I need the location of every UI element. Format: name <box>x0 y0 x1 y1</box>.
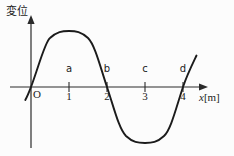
point-label-c: c <box>142 64 148 74</box>
point-label-b: b <box>104 64 110 74</box>
x-axis-title: x[m] <box>199 92 220 103</box>
x-tick-label-4: 4 <box>180 91 186 102</box>
x-tick-label-1: 1 <box>66 91 72 102</box>
x-axis-title-unit: [m] <box>204 91 220 103</box>
origin-label: O <box>33 89 41 100</box>
x-tick-label-3: 3 <box>142 91 148 102</box>
wave-plot-svg <box>0 0 234 156</box>
y-axis-title: 変位 <box>6 6 28 17</box>
point-label-d: d <box>180 64 186 74</box>
wave-displacement-figure: 変位 x[m] O 1 2 3 4 a b c d <box>0 0 234 156</box>
point-label-a: a <box>66 64 72 74</box>
x-tick-label-2: 2 <box>104 91 110 102</box>
